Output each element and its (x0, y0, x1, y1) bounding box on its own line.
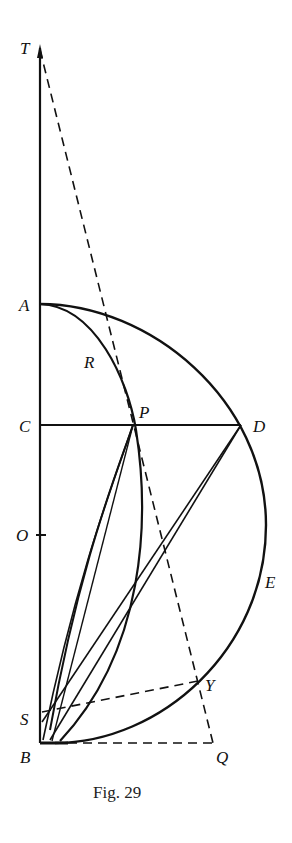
figure-caption: Fig. 29 (93, 783, 141, 802)
label-A: A (18, 296, 30, 315)
label-T: T (20, 39, 31, 58)
label-R: R (83, 353, 95, 372)
outer-curve-ADEB (40, 304, 266, 743)
label-O: O (16, 526, 28, 545)
label-Y: Y (205, 676, 216, 695)
label-D: D (252, 417, 266, 436)
line-P-B (52, 425, 133, 741)
label-C: C (19, 417, 31, 436)
label-S: S (20, 710, 29, 729)
label-B: B (20, 748, 31, 767)
curve-P-S (50, 425, 133, 730)
label-E: E (264, 573, 276, 592)
figure-diagram: T A R C P D O E S Y B Q Fig. 29 (0, 0, 292, 843)
label-Q: Q (216, 748, 228, 767)
label-P: P (138, 403, 149, 422)
